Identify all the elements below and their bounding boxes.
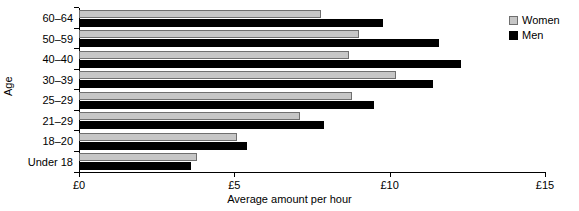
- bar-men: [79, 60, 461, 68]
- y-axis-tick-label: 25–29: [42, 94, 73, 106]
- men-swatch-icon: [509, 31, 518, 40]
- y-axis-tick: [74, 110, 79, 111]
- x-axis-tick: [545, 172, 546, 177]
- y-axis-tick: [74, 28, 79, 29]
- y-axis-tick-label: 40–40: [42, 53, 73, 65]
- y-axis-tick-label: 18–20: [42, 135, 73, 147]
- legend: Women Men: [509, 14, 560, 44]
- bar-men: [79, 162, 191, 170]
- category-row: 21–29: [79, 111, 545, 132]
- bar-women: [79, 153, 197, 161]
- y-axis-tick-label: 50–59: [42, 33, 73, 45]
- x-axis-tick: [390, 172, 391, 177]
- y-axis-tick: [74, 7, 79, 8]
- x-axis-tick-label: £5: [228, 179, 240, 191]
- y-axis-tick-label: 30–39: [42, 74, 73, 86]
- bar-women: [79, 133, 237, 141]
- bar-women: [79, 51, 349, 59]
- category-row: 30–39: [79, 70, 545, 91]
- legend-label-women: Women: [522, 14, 560, 26]
- y-axis-tick-label: Under 18: [28, 156, 73, 168]
- x-axis-tick: [234, 172, 235, 177]
- x-axis-tick-label: £0: [73, 179, 85, 191]
- category-row: 40–40: [79, 49, 545, 70]
- y-axis-tick: [74, 151, 79, 152]
- bar-women: [79, 71, 396, 79]
- plot-area: 60–6450–5940–4030–3925–2921–2918–20Under…: [79, 8, 545, 172]
- y-axis-tick: [74, 130, 79, 131]
- legend-item-men: Men: [509, 29, 560, 41]
- legend-label-men: Men: [522, 29, 543, 41]
- legend-item-women: Women: [509, 14, 560, 26]
- bar-men: [79, 121, 324, 129]
- bar-women: [79, 112, 300, 120]
- x-axis-tick: [79, 172, 80, 177]
- y-axis-tick: [74, 48, 79, 49]
- y-axis-tick-label: 60–64: [42, 12, 73, 24]
- bar-men: [79, 39, 439, 47]
- y-axis-tick-label: 21–29: [42, 115, 73, 127]
- category-row: Under 18: [79, 152, 545, 173]
- x-axis-tick-label: £10: [380, 179, 398, 191]
- y-axis-tick: [74, 69, 79, 70]
- bar-men: [79, 101, 374, 109]
- bar-chart: Age 60–6450–5940–4030–3925–2921–2918–20U…: [0, 0, 579, 211]
- bar-women: [79, 92, 352, 100]
- bar-women: [79, 10, 321, 18]
- bar-men: [79, 80, 433, 88]
- bar-men: [79, 19, 383, 27]
- women-swatch-icon: [509, 16, 518, 25]
- x-axis-tick-label: £15: [536, 179, 554, 191]
- category-row: 50–59: [79, 29, 545, 50]
- category-row: 25–29: [79, 90, 545, 111]
- category-row: 18–20: [79, 131, 545, 152]
- y-axis-title: Age: [2, 76, 14, 96]
- bar-women: [79, 30, 359, 38]
- y-axis-tick: [74, 89, 79, 90]
- bar-men: [79, 142, 247, 150]
- x-axis-title: Average amount per hour: [0, 193, 579, 205]
- category-row: 60–64: [79, 8, 545, 29]
- x-axis-line: [79, 172, 545, 173]
